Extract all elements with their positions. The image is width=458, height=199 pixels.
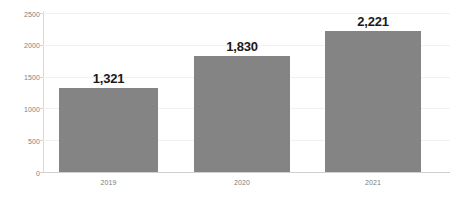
- x-axis-line: [43, 172, 450, 173]
- x-axis-label-2019: 2019: [59, 179, 158, 186]
- x-axis-label-2020: 2020: [194, 179, 290, 186]
- bar-2019[interactable]: [59, 88, 158, 172]
- y-axis-tick-label-500: 500: [0, 138, 40, 145]
- y-axis-tick-label-0: 0: [0, 170, 40, 177]
- y-axis-tick-labels: 0 500 1000 1500 2000 2500: [0, 0, 40, 199]
- gridline-2500: [43, 13, 450, 14]
- bar-2021[interactable]: [325, 31, 421, 172]
- bar-2020[interactable]: [194, 56, 290, 172]
- data-label-2021: 2,221: [325, 15, 421, 28]
- y-axis-tick-label-1500: 1500: [0, 74, 40, 81]
- y-axis-tick-label-1000: 1000: [0, 106, 40, 113]
- plot-area: [43, 13, 450, 172]
- data-label-2020: 1,830: [194, 40, 290, 53]
- bar-chart: 0 500 1000 1500 2000 2500 1,321 1,830 2,…: [0, 0, 458, 199]
- x-axis-label-2021: 2021: [325, 179, 421, 186]
- y-axis-tick-label-2000: 2000: [0, 42, 40, 49]
- data-label-2019: 1,321: [59, 72, 158, 85]
- y-axis-tick-label-2500: 2500: [0, 11, 40, 18]
